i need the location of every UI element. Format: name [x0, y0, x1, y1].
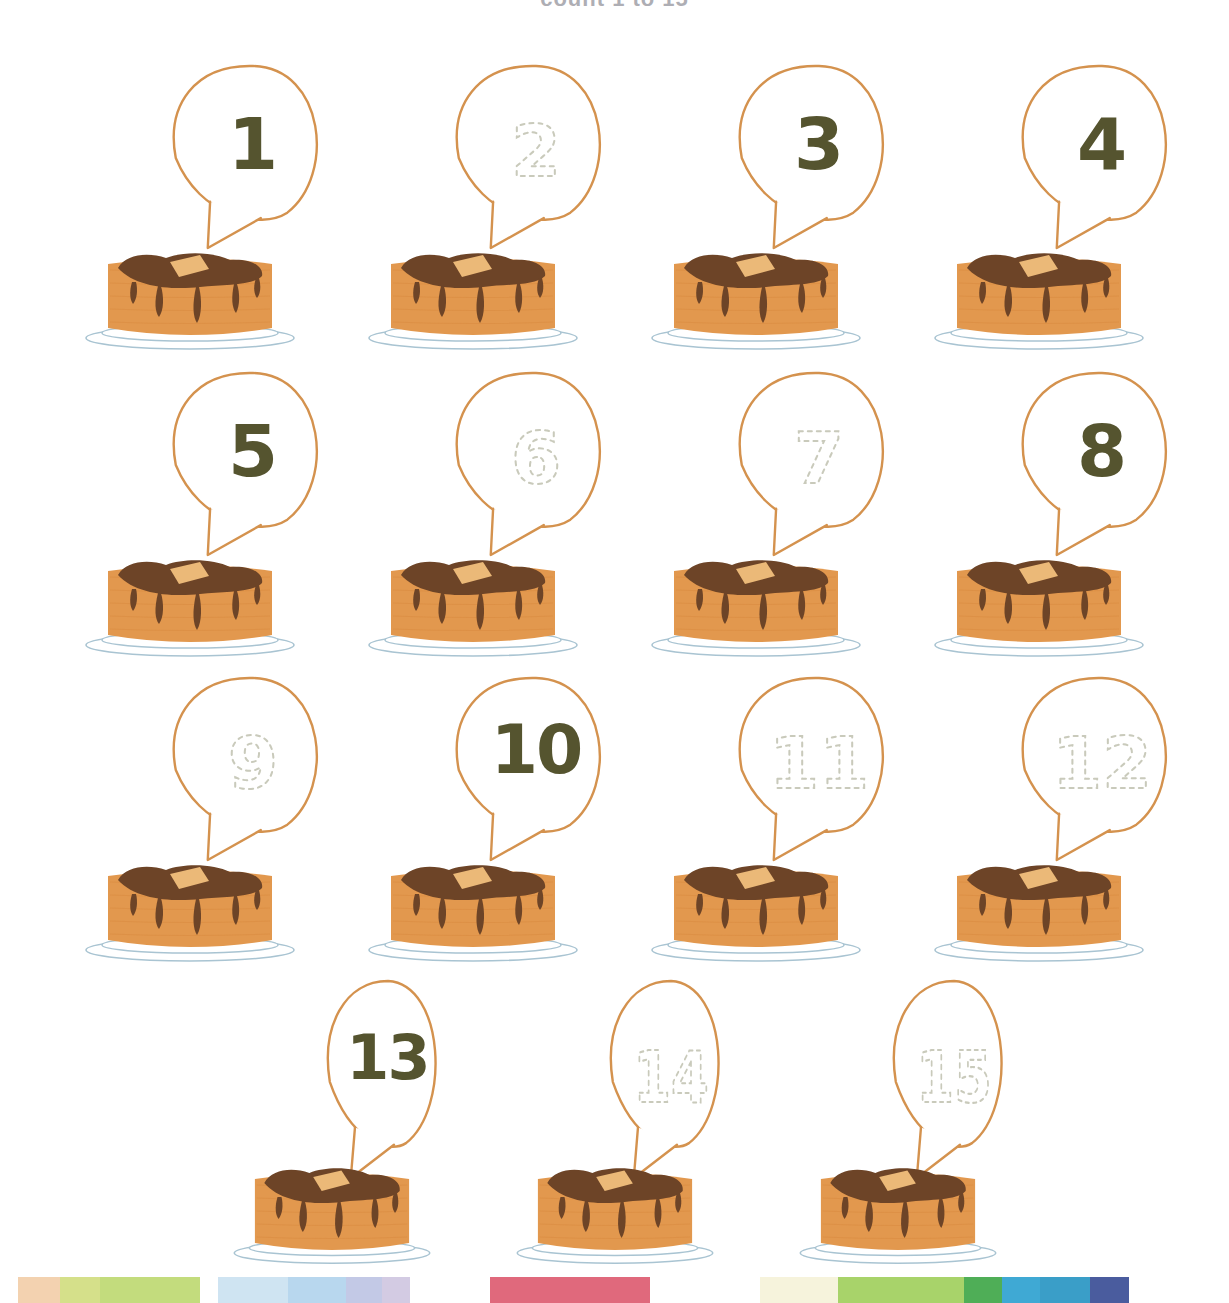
balloon-body: [740, 373, 883, 527]
balloon-body: [174, 373, 317, 527]
item-row-3: 9 9 10: [0, 672, 1229, 972]
pancake-stack-illustration: [223, 1155, 441, 1275]
speech-balloon: 4: [1017, 60, 1187, 250]
pancake-stack-illustration: [923, 242, 1155, 354]
pancake-stack: [357, 549, 589, 661]
pancake-stack-illustration: [357, 549, 589, 661]
color-bar-segment-lavender: [382, 1277, 410, 1303]
number-label: 10: [451, 716, 621, 784]
traced-number-outline: 14: [601, 975, 741, 1180]
counting-item[interactable]: 10: [332, 672, 615, 972]
pancake-stack: [223, 1155, 441, 1275]
balloon-tail-join: [1061, 199, 1108, 214]
speech-balloon: 12 12: [1017, 672, 1187, 862]
pancake-stack: [357, 242, 589, 354]
counting-item[interactable]: 8: [898, 367, 1181, 667]
counting-item[interactable]: 3: [615, 60, 898, 360]
number-trace-target[interactable]: 11 11: [734, 672, 904, 862]
worksheet-page: count 1 to 15 1 2 2: [0, 0, 1229, 1303]
counting-item[interactable]: 12 12: [898, 672, 1181, 972]
speech-balloon: 8: [1017, 367, 1187, 557]
counting-item[interactable]: 15 15: [756, 975, 1039, 1275]
page-title: count 1 to 15: [0, 0, 1229, 6]
traced-number-glyph: 2: [511, 109, 561, 193]
color-bar-segment-white-left: [0, 1277, 18, 1303]
color-bar-segment-rose-red: [490, 1277, 650, 1303]
color-bar-segment-sky-blue: [288, 1277, 346, 1303]
counting-item[interactable]: 2 2: [332, 60, 615, 360]
counting-item[interactable]: 5: [49, 367, 332, 667]
traced-number-glyph: 15: [916, 1036, 992, 1119]
number-label: 4: [1017, 108, 1187, 180]
balloon-tail-join: [212, 811, 259, 826]
pancake-stack-illustration: [923, 854, 1155, 966]
speech-balloon-shape: [734, 60, 904, 250]
pancake-stack: [506, 1155, 724, 1275]
counting-item[interactable]: 13: [190, 975, 473, 1275]
balloon-tail-join: [923, 1124, 958, 1141]
counting-item[interactable]: 6 6: [332, 367, 615, 667]
print-color-registration-bar: [0, 1277, 1229, 1303]
balloon-tail-join: [778, 811, 825, 826]
speech-balloon: 3: [734, 60, 904, 250]
traced-number-outline: 9: [168, 672, 338, 862]
balloon-tail-join: [212, 199, 259, 214]
speech-balloon: 13: [318, 975, 458, 1180]
counting-item[interactable]: 7 7: [615, 367, 898, 667]
balloon-body: [174, 66, 317, 220]
speech-balloon: 9 9: [168, 672, 338, 862]
traced-number-outline: 15: [884, 975, 1024, 1180]
color-bar-segment-white-gap-2: [410, 1277, 490, 1303]
counting-item[interactable]: 1: [49, 60, 332, 360]
counting-item[interactable]: 11 11: [615, 672, 898, 972]
speech-balloon-shape: [1017, 60, 1187, 250]
color-bar-segment-cyan: [1002, 1277, 1040, 1303]
item-row-4: 13 14 14: [0, 975, 1229, 1275]
pancake-stack: [640, 549, 872, 661]
speech-balloon-shape: [734, 672, 904, 862]
balloon-tail-join: [1061, 506, 1108, 521]
traced-number-glyph: 14: [633, 1036, 709, 1119]
speech-balloon-shape: [168, 367, 338, 557]
item-row-2: 5 6 6: [0, 367, 1229, 667]
counting-item[interactable]: 9 9: [49, 672, 332, 972]
color-bar-segment-yellow-green: [60, 1277, 100, 1303]
color-bar-segment-white-right: [1129, 1277, 1229, 1303]
traced-number-outline: 7: [734, 367, 904, 557]
traced-number-glyph: 9: [228, 721, 278, 805]
speech-balloon: 1: [168, 60, 338, 250]
speech-balloon-shape: [451, 672, 621, 862]
number-trace-target[interactable]: 6 6: [451, 367, 621, 557]
number-label: 1: [168, 108, 338, 180]
number-label: 8: [1017, 415, 1187, 487]
pancake-stack: [923, 549, 1155, 661]
color-bar-segment-periwinkle: [346, 1277, 382, 1303]
number-trace-target[interactable]: 2 2: [451, 60, 621, 250]
pancake-stack-illustration: [640, 242, 872, 354]
balloon-body: [457, 66, 600, 220]
number-trace-target[interactable]: 14 14: [601, 975, 741, 1180]
number-trace-target[interactable]: 7 7: [734, 367, 904, 557]
balloon-body: [457, 678, 600, 832]
number-trace-target[interactable]: 12 12: [1017, 672, 1187, 862]
color-bar-segment-peach: [18, 1277, 60, 1303]
number-trace-target[interactable]: 9 9: [168, 672, 338, 862]
number-trace-target[interactable]: 15 15: [884, 975, 1024, 1180]
speech-balloon: 6 6: [451, 367, 621, 557]
pancake-stack: [923, 242, 1155, 354]
speech-balloon: 10: [451, 672, 621, 862]
balloon-body: [1023, 66, 1166, 220]
color-bar-segment-white-gap-3: [650, 1277, 760, 1303]
number-label: 3: [734, 108, 904, 180]
pancake-stack-illustration: [74, 242, 306, 354]
pancake-stack: [74, 854, 306, 966]
speech-balloon-shape: [168, 60, 338, 250]
item-row-1: 1 2 2: [0, 60, 1229, 360]
traced-number-outline: 12: [1017, 672, 1187, 862]
counting-item[interactable]: 14 14: [473, 975, 756, 1275]
balloon-body: [1023, 373, 1166, 527]
pancake-stack-illustration: [789, 1155, 1007, 1275]
counting-item[interactable]: 4: [898, 60, 1181, 360]
pancake-stack: [640, 242, 872, 354]
speech-balloon-shape: [1017, 367, 1187, 557]
